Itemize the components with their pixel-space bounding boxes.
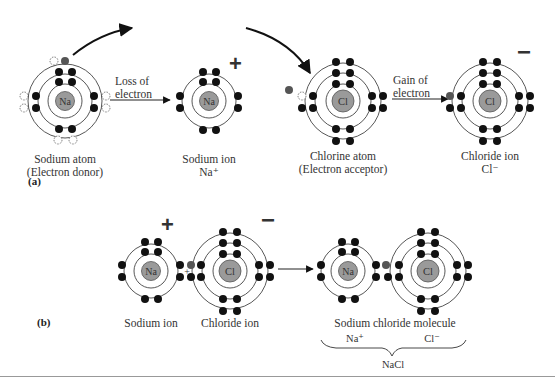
na-ion-label: Na⁺ [340, 332, 370, 345]
nucleus-symbol: Cl [418, 265, 438, 278]
plus-sign: + [182, 265, 192, 278]
loss-arrow-label: Loss of electron [115, 75, 175, 101]
nucleus-symbol: Na [141, 265, 161, 278]
caption-line: Chlorine atom [288, 150, 398, 163]
ionic-bond-diagram: Sodium atom (Electron donor) (a) Loss of… [0, 0, 555, 383]
nucleus-symbol: Na [199, 95, 219, 108]
chlorine-atom-caption: Chlorine atom (Electron acceptor) [288, 150, 398, 176]
caption-line: Cl⁻ [450, 163, 530, 176]
caption-line: Sodium ion [169, 153, 249, 166]
part-b-label: (b) [37, 316, 50, 328]
cl-ion-label: Cl⁻ [417, 332, 447, 345]
negative-charge-icon: − [517, 38, 531, 66]
caption-line: Gain of [393, 74, 453, 87]
molecule-caption: Sodium chloride molecule [330, 317, 460, 330]
positive-charge-icon: + [229, 51, 242, 77]
chloride-ion-caption: Chloride ion Cl⁻ [450, 150, 530, 176]
caption-line: electron [393, 87, 453, 100]
part-a-label: (a) [28, 175, 41, 187]
nucleus-symbol: Na [55, 95, 75, 108]
sodium-ion-caption: Sodium ion Na⁺ [169, 153, 249, 179]
formula-label: NaCl [376, 358, 410, 371]
caption-line: Na⁺ [169, 166, 249, 179]
caption-line: Sodium atom [15, 153, 115, 166]
bottom-rule [0, 376, 555, 377]
caption-line: Chloride ion [450, 150, 530, 163]
b-sodium-ion-caption: Sodium ion [111, 317, 191, 330]
positive-charge-icon: + [161, 212, 174, 238]
caption-line: Loss of [115, 75, 175, 88]
b-chloride-ion-caption: Chloride ion [190, 317, 270, 330]
nucleus-symbol: Cl [333, 95, 353, 108]
caption-line: electron [115, 88, 175, 101]
diagram-canvas [0, 0, 555, 383]
gain-arrow-label: Gain of electron [393, 74, 453, 100]
nucleus-symbol: Cl [480, 95, 500, 108]
nucleus-symbol: Na [338, 265, 358, 278]
electron-transfer-arrow [73, 28, 132, 55]
nucleus-symbol: Cl [220, 265, 240, 278]
electron-transfer-arrow-2 [246, 28, 310, 73]
caption-line: (Electron acceptor) [288, 163, 398, 176]
incoming-electron [285, 86, 293, 94]
negative-charge-icon: − [261, 206, 275, 234]
